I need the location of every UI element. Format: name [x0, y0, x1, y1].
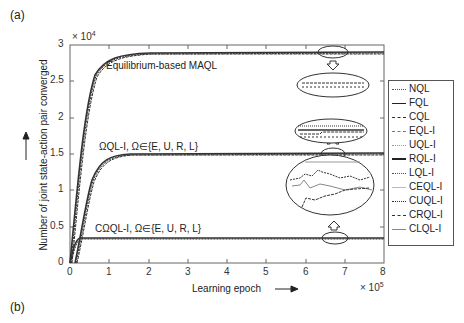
- annotation-omega-ql: ΩQL-I, Ω∈{E, U, R, L}: [99, 141, 198, 152]
- annotation-c-omega-ql: CΩQL-I, Ω∈{E, U, R, L}: [95, 223, 201, 234]
- y-tick-2: 2: [58, 111, 64, 122]
- legend-item-eql-i: EQL-I: [392, 124, 435, 138]
- legend-item-uql-i: UQL-I: [392, 138, 436, 152]
- x-tick-1: 1: [106, 266, 112, 277]
- x-tick-2: 2: [146, 266, 152, 277]
- legend-item-cql: CQL: [392, 110, 430, 124]
- x-tick-5: 5: [263, 266, 269, 277]
- x-tick-3: 3: [185, 266, 191, 277]
- legend-item-cuql-i: CUQL-I: [392, 194, 443, 208]
- x-tick-7: 7: [342, 266, 348, 277]
- x-tick-4: 4: [224, 266, 230, 277]
- x-tick-8: 8: [380, 266, 386, 277]
- y-tick-3: 3: [58, 38, 64, 49]
- legend-item-lql-i: LQL-I: [392, 166, 434, 180]
- x-tick-6: 6: [303, 266, 309, 277]
- y-tick-1.5: 1.5: [50, 147, 64, 158]
- y-tick-1: 1: [58, 183, 64, 194]
- chart-legend: NQL FQL CQL EQL-I UQL-I RQL-I LQL-I CEQL…: [388, 80, 454, 246]
- legend-item-rql-i: RQL-I: [392, 152, 436, 166]
- legend-item-ceql-i: CEQL-I: [392, 180, 442, 194]
- y-tick-2.5: 2.5: [50, 74, 64, 85]
- legend-item-clql-i: CLQL-I: [392, 222, 441, 236]
- y-multiplier: × 104: [72, 30, 96, 42]
- legend-item-nql: NQL: [392, 82, 430, 96]
- x-multiplier: × 105: [360, 281, 384, 293]
- y-tick-0.5: 0.5: [50, 220, 64, 231]
- y-tick-0: 0: [58, 256, 64, 267]
- y-axis-label: Number of joint state-action pair conver…: [38, 59, 49, 250]
- legend-item-crql-i: CRQL-I: [392, 208, 443, 222]
- x-tick-0: 0: [67, 266, 73, 277]
- legend-item-fql: FQL: [392, 96, 428, 110]
- x-axis-label: Learning epoch: [192, 283, 261, 294]
- annotation-equilibrium: Equilibrium-based MAQL: [106, 60, 217, 71]
